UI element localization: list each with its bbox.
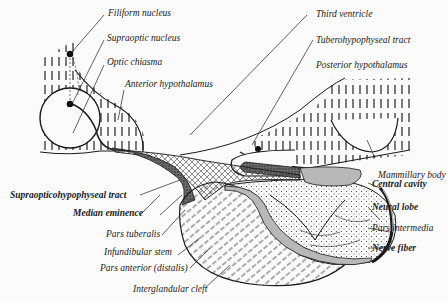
label-pars-intermedia: Pars intermedia (372, 224, 433, 234)
label-pars-anterior: Pars anterior (distalis) (100, 264, 188, 274)
label-posterior-hypothalamus: Posterior hypothalamus (316, 61, 408, 71)
label-infundibular-stem: Infundibular stem (104, 248, 172, 258)
label-third-ventricle: Third ventricle (316, 10, 372, 20)
optic-chiasma-circle (40, 88, 100, 148)
label-anterior-hypothalamus: Anterior hypothalamus (125, 80, 213, 90)
label-nerve-fiber: Nerve fiber (372, 244, 416, 254)
label-median-eminence: Median eminence (73, 209, 143, 219)
label-central-cavity: Central cavity (372, 180, 427, 190)
label-neural-lobe: Neural lobe (372, 203, 418, 213)
label-interglandular-cleft: Interglandular cleft (133, 285, 207, 295)
tuberal-nucleus-dot (255, 146, 261, 152)
label-supraopticohypophyseal-tract: Supraopticohypophyseal tract (10, 191, 126, 201)
label-tuberohypophyseal-tract: Tuberohypophyseal tract (316, 36, 410, 46)
gray-region-upper (300, 167, 361, 186)
label-optic-chiasma: Optic chiasma (107, 58, 162, 68)
label-supraoptic-nucleus: Supraoptic nucleus (107, 34, 180, 44)
label-pars-tuberalis: Pars tuberalis (106, 230, 160, 240)
label-filiform-nucleus: Filiform nucleus (108, 9, 171, 19)
hypophysis-diagram: Filiform nucleus Supraoptic nucleus Opti… (0, 0, 448, 301)
supraoptic-nucleus-dot (67, 101, 74, 108)
